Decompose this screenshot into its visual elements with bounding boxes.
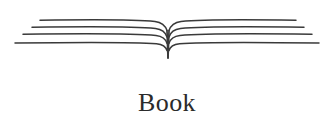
page-line-right-1 [169, 20, 296, 31]
open-book-icon [0, 0, 334, 72]
figure-root: Book [0, 0, 334, 128]
page-line-right-4 [169, 42, 319, 50]
page-line-left-4 [15, 42, 167, 50]
figure-caption: Book [0, 88, 334, 118]
open-book-svg [0, 0, 334, 72]
book-spine-right [168, 31, 169, 58]
page-line-left-1 [40, 20, 167, 31]
